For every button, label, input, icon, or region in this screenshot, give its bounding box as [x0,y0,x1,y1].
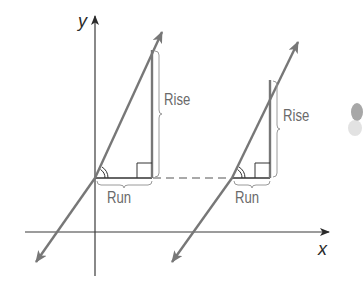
x-axis-label: x [318,240,327,258]
rise-brace-right [273,81,280,177]
run-label-right: Run [235,190,259,206]
line-1 [36,32,162,262]
diagram-parallel-lines-slope: y x Rise Run Rise Run [0,0,363,288]
scan-artifact [348,103,363,136]
run-brace-left [97,181,152,188]
angle-arc-marker [101,170,106,179]
run-brace-right [234,181,270,188]
right-slope-triangle [232,80,270,178]
y-axis-label: y [78,12,87,30]
run-label-left: Run [107,190,131,206]
rise-label-right: Rise [283,108,309,124]
rise-brace-left [155,51,162,177]
line-2 [172,42,298,262]
rise-label-left: Rise [164,92,190,108]
diagram-canvas [0,0,363,288]
angle-arc-marker [238,170,243,179]
right-angle-marker [255,163,270,178]
right-angle-marker [137,163,152,178]
